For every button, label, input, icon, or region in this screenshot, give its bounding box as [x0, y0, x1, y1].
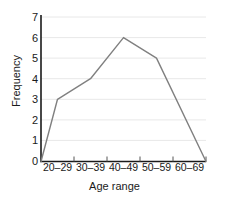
x-axis-tick-labels: 20–29 30–39 40–49 50–59 60–69 [0, 162, 229, 178]
x-tick-label: 60–69 [175, 162, 204, 173]
x-tick-label: 20–29 [43, 162, 72, 173]
x-tick-label: 30–39 [76, 162, 105, 173]
x-tick-label: 40–49 [109, 162, 138, 173]
frequency-polygon-chart: Frequency 0 1 2 3 4 5 6 7 [0, 0, 229, 202]
gridlines [41, 17, 206, 140]
x-tick-label: 50–59 [142, 162, 171, 173]
x-axis-title: Age range [0, 180, 229, 192]
